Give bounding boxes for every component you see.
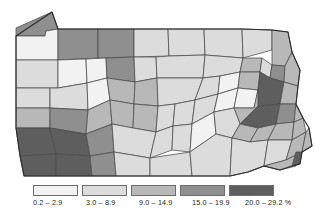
county-lancaster[interactable] [230,138,268,176]
map-canvas [0,0,315,182]
legend-swatch-0[interactable] [33,185,78,196]
county-huntingdon[interactable] [173,100,195,126]
county-beaver[interactable] [16,108,50,128]
county-franklin[interactable] [172,124,192,152]
legend-labels: 0.2 – 2.9 3.0 – 8.9 9.0 – 14.9 15.0 – 19… [33,198,294,207]
legend-label-0: 0.2 – 2.9 [33,198,82,207]
county-tioga[interactable] [168,29,205,56]
legend-swatch-1[interactable] [82,185,127,196]
county-greene[interactable] [20,154,56,176]
county-washington[interactable] [16,128,56,156]
county-somerset-s[interactable] [90,152,116,176]
county-cambria[interactable] [133,104,158,132]
choropleth-figure: 0.2 – 2.9 3.0 – 8.9 9.0 – 14.9 15.0 – 19… [0,0,315,223]
legend-label-4: 20.0 – 29.2 % [245,198,294,207]
county-columbia[interactable] [238,72,260,90]
county-layer [16,12,312,176]
county-indiana[interactable] [110,100,134,128]
legend: 0.2 – 2.9 3.0 – 8.9 9.0 – 14.9 15.0 – 19… [0,182,315,223]
county-clinton-n[interactable] [156,55,205,78]
county-potter[interactable] [134,29,169,57]
legend-swatches [33,185,274,196]
county-fayette[interactable] [56,154,92,176]
legend-label-1: 3.0 – 8.9 [86,198,135,207]
legend-swatch-3[interactable] [180,185,225,196]
legend-swatch-2[interactable] [131,185,176,196]
legend-label-3: 15.0 – 19.9 [192,198,241,207]
county-clearfield[interactable] [134,78,158,106]
legend-label-2: 9.0 – 14.9 [139,198,188,207]
pennsylvania-county-map[interactable] [0,0,315,182]
county-mckean[interactable] [98,29,134,58]
county-sullivan[interactable] [240,58,262,72]
county-lawrence[interactable] [16,88,50,108]
legend-swatch-4[interactable] [229,185,274,196]
county-mercer[interactable] [16,60,58,88]
county-bradford[interactable] [204,29,243,58]
county-warren[interactable] [58,29,98,60]
county-susquehanna[interactable] [242,29,272,58]
